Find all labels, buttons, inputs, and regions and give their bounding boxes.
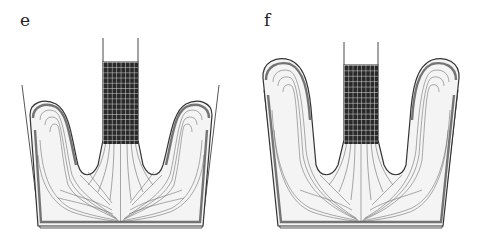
panel-e: e	[0, 0, 240, 240]
flow-diagram-e	[0, 0, 240, 240]
stem-mesh	[103, 62, 138, 144]
stem-mesh	[344, 65, 378, 144]
panel-f: f	[240, 0, 481, 240]
flow-diagram-f	[240, 0, 481, 240]
